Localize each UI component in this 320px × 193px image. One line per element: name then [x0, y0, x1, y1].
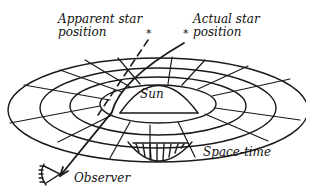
- observer-label: Observer: [74, 172, 130, 185]
- sun-label: Sun: [140, 88, 164, 101]
- apparent-star-marker: *: [146, 27, 152, 40]
- spacetime-label: Space-time: [203, 146, 271, 159]
- spacetime-funnel: [128, 142, 192, 161]
- apparent-star-label: Apparent star position: [58, 13, 142, 39]
- actual-star-marker: *: [183, 27, 189, 40]
- eye-icon: [39, 164, 60, 185]
- apparent-star-label-line2: position: [58, 26, 142, 39]
- actual-star-label: Actual star position: [193, 13, 260, 39]
- actual-star-label-line2: position: [193, 26, 260, 39]
